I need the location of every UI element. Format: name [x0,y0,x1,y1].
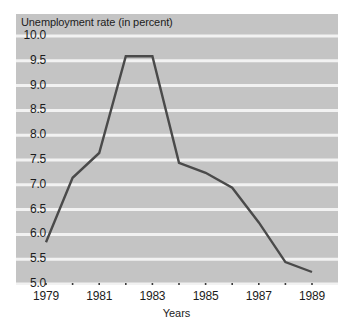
x-axis-tick-labels: 197919811983198519871989 [0,289,353,305]
plot-area [16,14,338,285]
unemployment-rate-line-chart: Unemployment rate (in percent) 10.09.59.… [0,0,353,325]
y-axis-tick-label: 6.0 [14,226,46,240]
y-axis-tick-label: 7.5 [14,152,46,166]
y-axis-tick-label: 10.0 [14,28,46,42]
x-axis-tick-label: 1987 [239,289,279,303]
x-axis-title: Years [0,307,353,319]
x-axis-tick-label: 1981 [79,289,119,303]
x-axis-ticks-layer [16,14,338,285]
x-axis-tick-label: 1985 [186,289,226,303]
y-axis-tick-label: 6.5 [14,202,46,216]
y-axis-tick-label: 7.0 [14,177,46,191]
y-axis-tick-label: 9.0 [14,78,46,92]
x-axis-tick-label: 1983 [132,289,172,303]
y-axis-tick-label: 5.5 [14,251,46,265]
y-axis-tick-labels: 10.09.59.08.58.07.57.06.56.05.55.0 [0,0,60,325]
y-axis-tick-label: 5.0 [14,276,46,290]
x-axis-tick-label: 1989 [292,289,332,303]
y-axis-tick-label: 8.0 [14,127,46,141]
y-axis-tick-label: 8.5 [14,102,46,116]
y-axis-tick-label: 9.5 [14,53,46,67]
x-axis-tick-label: 1979 [26,289,66,303]
